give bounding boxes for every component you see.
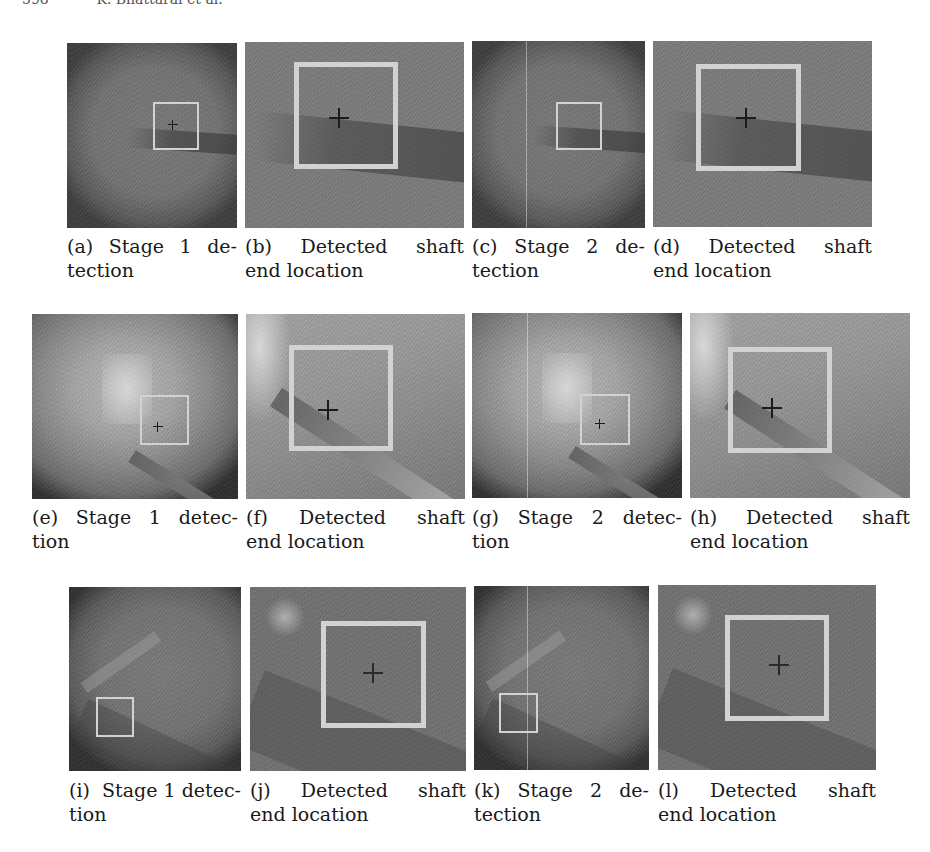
figure-image-f [246, 314, 465, 499]
caption-c: (c)Stage2de- tection [472, 234, 645, 282]
tissue-highlight [265, 597, 305, 637]
figure-image-l [658, 585, 876, 770]
detection-box [499, 693, 538, 733]
figure-image-c [472, 41, 645, 228]
detection-box [725, 615, 829, 721]
figure-image-b [245, 42, 464, 228]
caption-j: (j)Detectedshaft end location [250, 778, 466, 826]
figure-image-d [653, 41, 872, 227]
figure-image-j [250, 587, 466, 771]
caption-e: (e)Stage1detec- tion [32, 505, 238, 553]
page-number: 598 [22, 0, 92, 7]
scan-line [527, 313, 528, 498]
detection-box [96, 697, 134, 737]
tissue-highlight [673, 595, 713, 635]
detection-box [580, 394, 630, 445]
figure-image-g [472, 313, 682, 498]
caption-f: (f)Detectedshaft end location [246, 505, 465, 553]
caption-a: (a)Stage1de- tection [67, 234, 237, 282]
figure-image-k [474, 586, 649, 770]
caption-k: (k)Stage2de- tection [474, 778, 649, 826]
scan-line [527, 586, 528, 770]
caption-i: (i)Stage 1 detec- tion [69, 778, 241, 826]
caption-h: (h)Detectedshaft end location [690, 505, 910, 553]
running-head: K. Bhattarai et al. [96, 0, 222, 7]
detection-box [728, 347, 832, 453]
detection-box [140, 395, 189, 445]
caption-b: (b)Detectedshaft end location [245, 234, 464, 282]
figure-image-a [67, 43, 237, 228]
detection-box [556, 102, 602, 150]
figure-image-e [32, 314, 238, 499]
caption-d: (d)Detectedshaft end location [653, 234, 872, 282]
scan-line [526, 41, 527, 228]
figure-image-h [690, 313, 910, 498]
caption-l: (l)Detectedshaft end location [658, 778, 876, 826]
running-header: 598 K. Bhattarai et al. [22, 0, 223, 7]
detection-box [289, 345, 393, 451]
detection-box [153, 102, 199, 150]
figure-image-i [69, 587, 241, 771]
caption-g: (g)Stage2detec- tion [472, 505, 682, 553]
detection-box [294, 62, 398, 169]
